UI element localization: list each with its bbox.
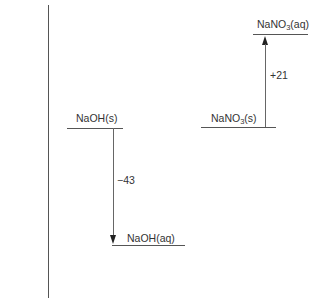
nano3-aqueous-state: (aq) <box>290 18 309 30</box>
naoh-enthalpy-change: −43 <box>117 174 135 186</box>
nano3-solid-state: (s) <box>244 112 256 124</box>
nano3-solid-formula: NaNO <box>211 112 240 124</box>
nano3-aqueous-level <box>253 34 308 35</box>
naoh-aqueous-formula: NaOH <box>127 232 156 244</box>
nano3-aqueous-label: NaNO3(aq) <box>257 18 309 30</box>
nano3-dissolution-arrow-shaft <box>265 44 266 127</box>
down-arrowhead-icon <box>110 235 116 244</box>
naoh-aqueous-state: (aq) <box>156 232 175 244</box>
nano3-solid-level <box>201 127 276 128</box>
nano3-aqueous-formula: NaNO <box>257 18 286 30</box>
nano3-solid-label: NaNO3(s) <box>211 112 257 124</box>
nano3-enthalpy-change: +21 <box>270 69 288 81</box>
naoh-aqueous-label: NaOH(aq) <box>127 232 175 244</box>
naoh-aqueous-level <box>112 245 185 246</box>
arrowheads <box>0 0 320 308</box>
